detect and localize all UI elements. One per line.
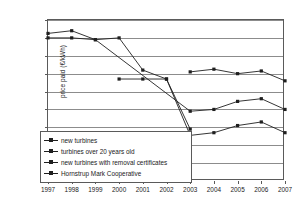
series-line xyxy=(48,31,285,112)
data-point-marker xyxy=(236,124,239,127)
data-point-marker xyxy=(141,68,144,71)
data-point-marker xyxy=(212,131,215,134)
legend-marker-icon xyxy=(44,136,58,145)
data-point-marker xyxy=(212,68,215,71)
x-tick-mark xyxy=(285,181,286,184)
data-point-marker xyxy=(236,72,239,75)
legend-marker-icon xyxy=(44,158,58,167)
x-tick-label: 2007 xyxy=(270,186,300,193)
data-point-marker xyxy=(165,77,168,80)
data-point-marker xyxy=(283,131,286,134)
data-point-marker xyxy=(260,97,263,100)
plot-area: price paid (€/kWh) 0.090.080.070.060.050… xyxy=(47,19,284,180)
data-point-marker xyxy=(260,120,263,123)
x-tick-mark xyxy=(238,181,239,184)
legend-marker-icon xyxy=(44,169,58,178)
legend-item: new turbines with removal certificates xyxy=(44,157,187,168)
legend-marker-icon xyxy=(44,147,58,156)
legend-label: new turbines xyxy=(61,137,97,144)
data-point-marker xyxy=(94,38,97,41)
data-point-marker xyxy=(118,77,121,80)
legend-item: turbines over 20 years old xyxy=(44,146,187,157)
series-line xyxy=(119,79,285,135)
data-point-marker xyxy=(236,100,239,103)
data-point-marker xyxy=(189,70,192,73)
data-point-marker xyxy=(283,108,286,111)
data-point-marker xyxy=(70,36,73,39)
data-point-marker xyxy=(70,29,73,32)
y-axis-title: price paid (€/kWh) xyxy=(59,24,66,120)
data-point-marker xyxy=(118,36,121,39)
legend-item: new turbines xyxy=(44,135,187,146)
data-point-marker xyxy=(46,32,49,35)
data-point-marker xyxy=(260,69,263,72)
line-chart: price paid (€/kWh) 0.090.080.070.060.050… xyxy=(0,0,302,209)
legend-label: new turbines with removal certificates xyxy=(61,159,167,166)
data-point-marker xyxy=(283,79,286,82)
data-point-marker xyxy=(189,110,192,113)
x-tick-mark xyxy=(261,181,262,184)
data-point-marker xyxy=(46,36,49,39)
data-point-marker xyxy=(141,77,144,80)
x-tick-mark xyxy=(214,181,215,184)
legend-item: Hornstrup Mark Cooperative xyxy=(44,168,187,179)
legend-label: Hornstrup Mark Cooperative xyxy=(61,170,141,177)
data-point-marker xyxy=(212,108,215,111)
legend-label: turbines over 20 years old xyxy=(61,148,135,155)
legend: new turbinesturbines over 20 years oldne… xyxy=(40,131,192,183)
